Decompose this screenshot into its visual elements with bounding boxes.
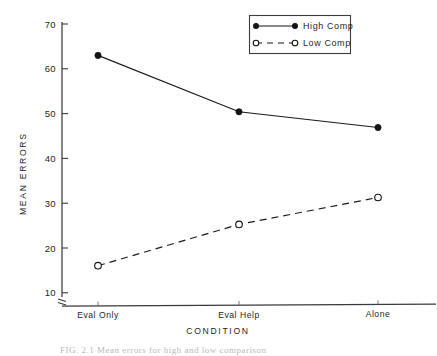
legend-label-low-comp: Low Comp	[303, 38, 351, 48]
y-axis-title: MEAN ERRORS	[18, 132, 28, 215]
series-high-comp	[95, 52, 381, 130]
y-axis: 70 60 50 40 30 20 10 MEAN ERRORS	[18, 19, 68, 306]
y-tick-marks	[62, 24, 68, 293]
y-tick-label-70: 70	[45, 19, 56, 30]
series-low-comp-line	[98, 198, 378, 266]
legend-marker-open-left-icon	[253, 40, 259, 46]
y-tick-label-60: 60	[45, 63, 56, 74]
legend-marker-filled-left-icon	[253, 23, 258, 28]
x-tick-label-eval-only: Eval Only	[77, 310, 119, 320]
legend-marker-filled-right-icon	[292, 23, 297, 28]
x-tick-label-alone: Alone	[366, 309, 391, 319]
legend: High Comp Low Comp	[250, 16, 354, 54]
x-axis-title: CONDITION	[186, 326, 250, 336]
legend-marker-open-right-icon	[292, 40, 298, 46]
y-tick-label-50: 50	[45, 108, 56, 119]
y-tick-label-20: 20	[45, 243, 56, 254]
legend-label-high-comp: High Comp	[303, 21, 353, 31]
series-high-comp-line	[98, 55, 378, 127]
data-point-low-comp-eval-only	[95, 262, 102, 269]
figure-caption: FIG. 2.1 Mean errors for high and low co…	[60, 345, 266, 355]
y-tick-label-30: 30	[45, 198, 56, 209]
x-axis-line	[62, 304, 436, 306]
figure-container: 70 60 50 40 30 20 10 MEAN ERRORS Eval On…	[0, 0, 437, 356]
y-tick-label-10: 10	[45, 287, 56, 298]
data-point-high-comp-alone	[375, 124, 381, 130]
data-point-high-comp-eval-help	[236, 109, 242, 115]
y-axis-break-icon	[58, 299, 66, 305]
x-axis: Eval Only Eval Help Alone CONDITION	[62, 300, 436, 336]
y-tick-label-40: 40	[45, 153, 56, 164]
data-point-low-comp-alone	[375, 194, 382, 201]
data-point-high-comp-eval-only	[95, 52, 101, 58]
data-point-low-comp-eval-help	[236, 221, 243, 228]
series-low-comp	[95, 194, 382, 269]
x-tick-label-eval-help: Eval Help	[218, 310, 260, 320]
line-chart: 70 60 50 40 30 20 10 MEAN ERRORS Eval On…	[0, 0, 437, 356]
